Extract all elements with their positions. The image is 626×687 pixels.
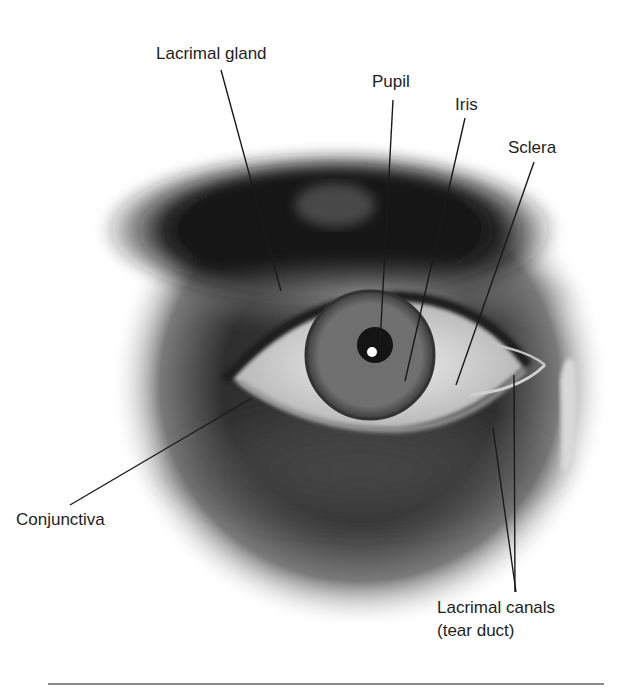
label-lacrimal-gland: Lacrimal gland bbox=[156, 44, 267, 64]
label-iris: Iris bbox=[455, 95, 478, 115]
label-conjunctiva: Conjunctiva bbox=[16, 510, 105, 530]
eye-photo-illustration bbox=[0, 0, 626, 687]
bottom-divider bbox=[48, 683, 604, 685]
catchlight bbox=[367, 347, 377, 357]
label-tear-duct: (tear duct) bbox=[437, 621, 514, 641]
label-lacrimal-canals: Lacrimal canals bbox=[437, 598, 555, 618]
pupil bbox=[357, 327, 393, 363]
label-pupil: Pupil bbox=[372, 72, 410, 92]
eye-anatomy-figure: Lacrimal gland Pupil Iris Sclera Conjunc… bbox=[0, 0, 626, 687]
label-sclera: Sclera bbox=[508, 138, 556, 158]
leader-lacrimal-canals-b bbox=[514, 375, 515, 592]
